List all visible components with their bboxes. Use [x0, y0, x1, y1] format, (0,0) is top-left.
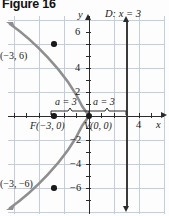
curve-arrow-lower — [4, 194, 24, 214]
y-axis-label: y — [78, 10, 83, 21]
point-upper — [51, 41, 56, 46]
point-lower — [51, 185, 56, 190]
directrix-label: D: x = 3 — [105, 9, 141, 20]
x-tick-label-4: 4 — [136, 120, 141, 131]
curve-arrow-upper — [4, 18, 24, 38]
brace-right — [89, 108, 126, 115]
x-axis-label: x — [156, 120, 161, 131]
y-tick-label-4: 4 — [75, 63, 80, 74]
y-tick-label-6: 6 — [75, 27, 80, 38]
brace-left — [51, 108, 89, 115]
point-upper-label: (−3, 6) — [0, 51, 27, 61]
focus-label: F(−3, 0) — [30, 121, 65, 131]
figure-title: Figure 16 — [2, 0, 122, 13]
y-tick-label-neg4: −4 — [70, 159, 81, 170]
brace-left-label: a = 3 — [55, 97, 77, 107]
y-tick-label-neg6: −6 — [70, 183, 81, 194]
plot-area: 6 4 2 −2 −4 −6 4 y x D: x = 3 a = 3 a = … — [8, 16, 164, 214]
figure-container: Figure 16 — [0, 0, 169, 216]
y-tick-label-neg2: −2 — [70, 135, 81, 146]
directrix-arrow-down — [123, 206, 129, 212]
point-lower-label: (−3, −6) — [0, 179, 33, 189]
vertex-label: V(0, 0) — [84, 121, 112, 131]
brace-right-label: a = 3 — [93, 97, 115, 107]
focus-point — [51, 113, 56, 118]
